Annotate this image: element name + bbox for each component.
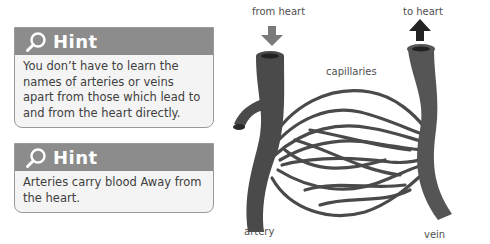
hint-text: You don’t have to learn the names of art… [15, 55, 213, 127]
magnifier-icon [25, 31, 47, 53]
label-to-heart: to heart [403, 6, 443, 17]
circulation-diagram: from heart to heart capillaries artery v… [220, 0, 490, 244]
capillary-network [268, 91, 425, 216]
label-from-heart: from heart [252, 6, 305, 17]
magnifier-icon [25, 147, 47, 169]
hint-title: Hint [53, 147, 98, 168]
label-artery: artery [244, 226, 274, 237]
hint-text: Arteries carry blood Away from the heart… [15, 171, 213, 212]
artery-vessel [233, 51, 284, 232]
arrow-up-icon [409, 19, 431, 41]
hint-box-1: Hint You don’t have to learn the names o… [14, 27, 214, 128]
vessel-illustration [220, 0, 490, 244]
hint-header: Hint [15, 144, 213, 171]
label-capillaries: capillaries [326, 66, 377, 77]
label-vein: vein [424, 229, 445, 240]
hint-box-2: Hint Arteries carry blood Away from the … [14, 143, 214, 213]
hint-header: Hint [15, 28, 213, 55]
arrow-down-icon [261, 26, 283, 46]
hint-title: Hint [53, 31, 98, 52]
